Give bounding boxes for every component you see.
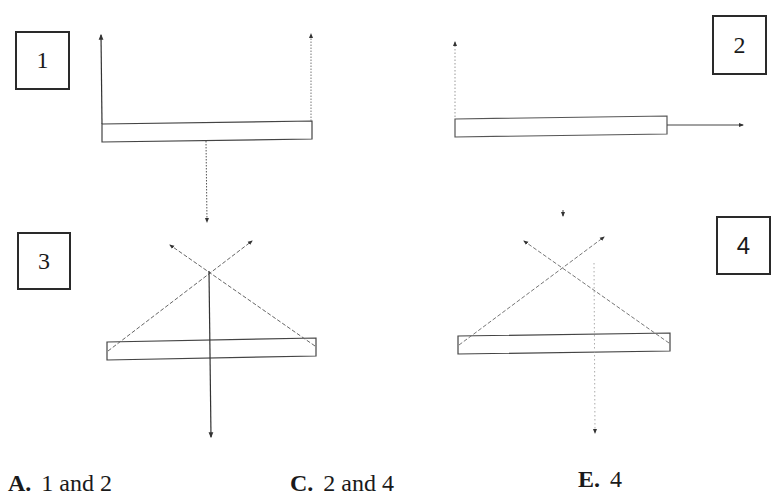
diagram-3: [107, 241, 316, 437]
diagram-4-dashed-ray-right: [459, 237, 604, 345]
answer-option-a-letter: A.: [8, 470, 31, 496]
answer-option-e-letter: E.: [578, 466, 600, 492]
diagram-3-solid-down-arrow: [209, 271, 211, 437]
diagram-3-dashed-ray-right: [108, 241, 252, 351]
diagram-4: [458, 210, 670, 433]
answer-option-c[interactable]: C.2 and 4: [290, 470, 394, 497]
diagram-1: [101, 34, 312, 222]
wave-diagrams: [0, 0, 779, 497]
diagram-3-dashed-ray-left: [170, 245, 315, 346]
diagram-1-dotted-down-arrow: [206, 141, 207, 222]
answer-option-a-text: 1 and 2: [41, 470, 112, 496]
diagram-1-solid-up-arrow: [101, 35, 102, 124]
diagram-2: [455, 42, 743, 137]
diagram-4-dashed-ray-left: [524, 241, 669, 343]
answer-option-c-text: 2 and 4: [323, 470, 394, 496]
slab-3: [107, 338, 316, 360]
slab-4: [458, 333, 670, 354]
slab-1: [102, 121, 312, 142]
answer-option-e[interactable]: E.4: [578, 466, 622, 493]
slab-2: [455, 116, 667, 137]
diagram-4-dotted-down-arrow: [594, 263, 595, 433]
answer-option-e-text: 4: [610, 466, 622, 492]
answer-option-c-letter: C.: [290, 470, 313, 496]
answer-option-a[interactable]: A.1 and 2: [8, 470, 112, 497]
